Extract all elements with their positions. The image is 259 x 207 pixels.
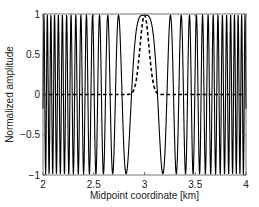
y-tick-label: 0 <box>34 89 40 100</box>
y-tick-label: 1 <box>34 9 40 20</box>
y-axis-label: Normalized amplitude <box>4 46 15 143</box>
y-tick-label: −0.5 <box>20 129 40 140</box>
x-tick-label: 2.5 <box>87 179 101 190</box>
x-axis-label: Midpoint coordinate [km] <box>90 190 199 201</box>
chart: 22.533.54 −1−0.500.51 Midpoint coordinat… <box>0 0 259 207</box>
x-tick-label: 4 <box>243 179 249 190</box>
y-tick-label: 0.5 <box>26 49 40 60</box>
x-tick-label: 2 <box>40 179 46 190</box>
x-tick-label: 3 <box>142 179 148 190</box>
y-tick-label: −1 <box>29 170 41 181</box>
x-tick-label: 3.5 <box>188 179 202 190</box>
